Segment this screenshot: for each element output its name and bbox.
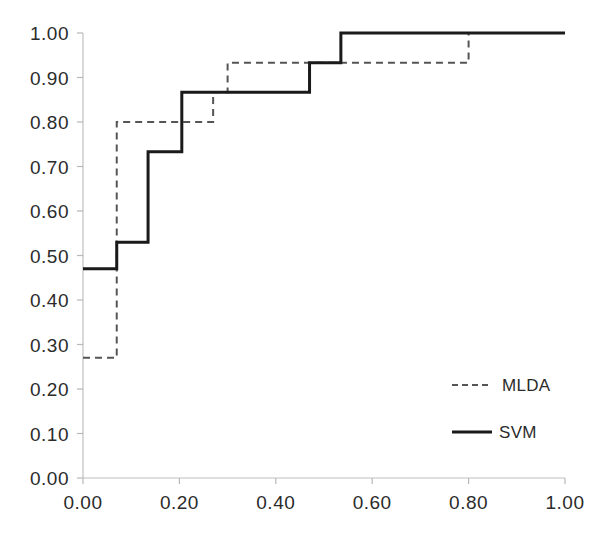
y-tick-label: 0.20 bbox=[30, 379, 69, 400]
y-tick-label: 0.60 bbox=[30, 201, 69, 222]
y-tick-label: 0.70 bbox=[30, 157, 69, 178]
y-tick-label: 1.00 bbox=[30, 23, 69, 44]
x-tick-label: 0.20 bbox=[160, 492, 199, 513]
y-tick-label: 0.50 bbox=[30, 246, 69, 267]
x-tick-label: 0.80 bbox=[449, 492, 488, 513]
y-tick-label: 0.80 bbox=[30, 112, 69, 133]
roc-chart-figure: 0.000.100.200.300.400.500.600.700.800.90… bbox=[0, 0, 605, 537]
y-tick-label: 0.00 bbox=[30, 468, 69, 489]
legend-label-svm: SVM bbox=[499, 423, 537, 442]
legend-label-mlda: MLDA bbox=[502, 376, 551, 395]
x-tick-label: 0.60 bbox=[353, 492, 392, 513]
y-tick-label: 0.90 bbox=[30, 68, 69, 89]
x-tick-label: 0.00 bbox=[64, 492, 103, 513]
roc-chart-canvas: 0.000.100.200.300.400.500.600.700.800.90… bbox=[0, 0, 605, 537]
y-tick-label: 0.30 bbox=[30, 335, 69, 356]
x-tick-label: 0.40 bbox=[256, 492, 295, 513]
x-tick-label: 1.00 bbox=[546, 492, 585, 513]
y-tick-label: 0.40 bbox=[30, 290, 69, 311]
y-tick-label: 0.10 bbox=[30, 424, 69, 445]
